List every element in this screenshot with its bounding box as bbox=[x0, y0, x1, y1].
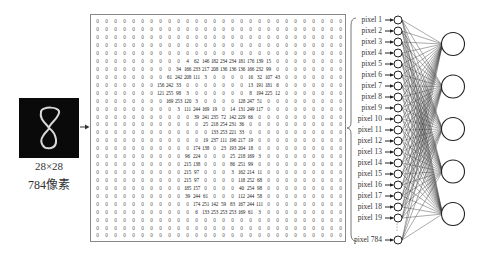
matrix-cell: 0 bbox=[201, 26, 210, 34]
matrix-cell: 0 bbox=[237, 89, 246, 97]
matrix-cell: 0 bbox=[264, 169, 273, 177]
input-node-label: pixel 17 bbox=[338, 192, 382, 200]
matrix-cell: 0 bbox=[129, 105, 138, 113]
matrix-cell: 0 bbox=[102, 66, 111, 74]
matrix-cell: 244 bbox=[192, 105, 201, 113]
matrix-cell: 0 bbox=[102, 42, 111, 50]
matrix-cell: 244 bbox=[192, 192, 201, 200]
matrix-cell: 0 bbox=[183, 216, 192, 224]
matrix-cell: 0 bbox=[219, 161, 228, 169]
connection-line bbox=[402, 163, 443, 214]
matrix-cell: 16 bbox=[246, 73, 255, 81]
matrix-cell: 98 bbox=[174, 89, 183, 97]
matrix-cell: 0 bbox=[273, 184, 282, 192]
matrix-cell: 0 bbox=[120, 153, 129, 161]
matrix-cell: 112 bbox=[237, 192, 246, 200]
matrix-cell: 0 bbox=[111, 192, 120, 200]
matrix-cell: 0 bbox=[273, 208, 282, 216]
matrix-cell: 0 bbox=[309, 105, 318, 113]
matrix-cell: 0 bbox=[300, 137, 309, 145]
matrix-cell: 0 bbox=[201, 50, 210, 58]
matrix-cell: 0 bbox=[93, 129, 102, 137]
matrix-cell: 0 bbox=[138, 73, 147, 81]
matrix-cell: 0 bbox=[102, 26, 111, 34]
matrix-cell: 72 bbox=[219, 113, 228, 121]
matrix-cell: 0 bbox=[138, 34, 147, 42]
matrix-cell: 0 bbox=[237, 81, 246, 89]
matrix-cell: 0 bbox=[309, 113, 318, 121]
matrix-cell: 0 bbox=[309, 153, 318, 161]
matrix-cell: 0 bbox=[147, 153, 156, 161]
matrix-cell: 0 bbox=[129, 89, 138, 97]
matrix-cell: 234 bbox=[228, 58, 237, 66]
connection-line bbox=[402, 108, 443, 172]
matrix-cell: 131 bbox=[237, 105, 246, 113]
connection-line bbox=[402, 20, 443, 129]
arrow-head-icon bbox=[390, 51, 394, 55]
connection-line bbox=[402, 172, 443, 175]
connection-line bbox=[402, 44, 443, 86]
input-node bbox=[394, 137, 402, 145]
matrix-cell: 0 bbox=[210, 89, 219, 97]
matrix-cell: 242 bbox=[174, 73, 183, 81]
matrix-cell: 0 bbox=[282, 161, 291, 169]
matrix-cell: 0 bbox=[93, 153, 102, 161]
matrix-cell: 83 bbox=[228, 200, 237, 208]
matrix-cell: 0 bbox=[111, 169, 120, 177]
matrix-cell: 0 bbox=[120, 137, 129, 145]
matrix-cell: 0 bbox=[228, 34, 237, 42]
matrix-cell: 0 bbox=[327, 18, 336, 26]
matrix-cell: 0 bbox=[300, 232, 309, 240]
matrix-cell: 0 bbox=[147, 177, 156, 185]
matrix-cell: 0 bbox=[201, 224, 210, 232]
matrix-cell: 0 bbox=[183, 81, 192, 89]
matrix-cell: 181 bbox=[237, 58, 246, 66]
connection-line bbox=[402, 152, 443, 214]
matrix-cell: 0 bbox=[282, 200, 291, 208]
input-node bbox=[394, 192, 402, 200]
matrix-cell: 0 bbox=[93, 192, 102, 200]
matrix-cell: 0 bbox=[210, 153, 219, 161]
matrix-cell: 0 bbox=[273, 34, 282, 42]
connection-line bbox=[402, 87, 443, 197]
matrix-cell: 0 bbox=[102, 169, 111, 177]
matrix-cell: 0 bbox=[129, 121, 138, 129]
matrix-cell: 25 bbox=[228, 153, 237, 161]
matrix-cell: 0 bbox=[282, 73, 291, 81]
matrix-cell: 242 bbox=[165, 81, 174, 89]
matrix-cell: 0 bbox=[210, 161, 219, 169]
matrix-cell: 193 bbox=[228, 145, 237, 153]
matrix-cell: 96 bbox=[183, 153, 192, 161]
matrix-cell: 0 bbox=[273, 192, 282, 200]
arrow-head-icon bbox=[390, 40, 394, 44]
matrix-cell: 40 bbox=[237, 184, 246, 192]
arrow-head-icon bbox=[390, 139, 394, 143]
matrix-cell: 0 bbox=[120, 50, 129, 58]
matrix-cell: 0 bbox=[273, 232, 282, 240]
connection-line bbox=[402, 44, 443, 196]
matrix-cell: 0 bbox=[174, 208, 183, 216]
matrix-cell: 0 bbox=[210, 177, 219, 185]
matrix-cell: 0 bbox=[318, 34, 327, 42]
matrix-cell: 0 bbox=[183, 232, 192, 240]
matrix-cell: 253 bbox=[228, 208, 237, 216]
matrix-cell: 138 bbox=[201, 145, 210, 153]
matrix-cell: 0 bbox=[129, 66, 138, 74]
matrix-cell: 0 bbox=[273, 121, 282, 129]
matrix-cell: 0 bbox=[318, 192, 327, 200]
matrix-cell: 176 bbox=[246, 58, 255, 66]
matrix-cell: 0 bbox=[129, 192, 138, 200]
matrix-cell: 0 bbox=[255, 18, 264, 26]
matrix-cell: 0 bbox=[282, 113, 291, 121]
connection-line bbox=[402, 172, 443, 208]
matrix-cell: 0 bbox=[102, 113, 111, 121]
matrix-cell: 0 bbox=[147, 200, 156, 208]
connection-line bbox=[402, 44, 443, 97]
matrix-cell: 0 bbox=[147, 73, 156, 81]
matrix-cell: 247 bbox=[246, 97, 255, 105]
matrix-cell: 0 bbox=[264, 18, 273, 26]
matrix-cell: 0 bbox=[120, 26, 129, 34]
matrix-cell: 99 bbox=[264, 66, 273, 74]
matrix-cell: 0 bbox=[165, 208, 174, 216]
matrix-cell: 0 bbox=[183, 208, 192, 216]
